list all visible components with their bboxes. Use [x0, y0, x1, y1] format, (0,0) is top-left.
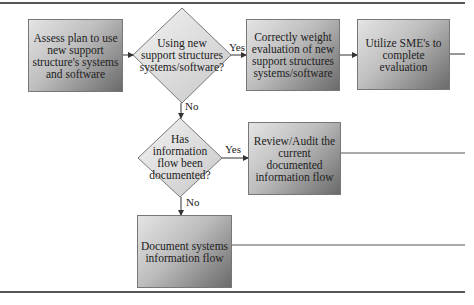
review-audit-label: Review/Audit the current documented info… — [251, 135, 338, 183]
document-flow-box: Document systems information flow — [137, 215, 232, 288]
edge-label-yes-2: Yes — [225, 143, 241, 155]
correctly-weight-box: Correctly weight evaluation of new suppo… — [246, 19, 340, 91]
decision-new-systems-text: Using new support structures systems/sof… — [140, 30, 224, 80]
edge-label-no-2: No — [186, 196, 199, 208]
decision-documented-label: Has information flow been documented? — [146, 133, 214, 181]
assess-plan-label: Assess plan to use new support structure… — [31, 32, 120, 80]
review-audit-box: Review/Audit the current documented info… — [248, 122, 341, 195]
document-flow-label: Document systems information flow — [140, 240, 229, 264]
utilize-sme-label: Utilize SME's to complete evaluation — [360, 37, 447, 73]
utilize-sme-box: Utilize SME's to complete evaluation — [357, 19, 450, 90]
correctly-weight-label: Correctly weight evaluation of new suppo… — [249, 31, 337, 79]
edge-label-yes-1: Yes — [229, 41, 245, 53]
edge-label-no-1: No — [185, 100, 198, 112]
assess-plan-box: Assess plan to use new support structure… — [28, 19, 123, 92]
decision-documented-text: Has information flow been documented? — [146, 128, 214, 186]
decision-new-systems-label: Using new support structures systems/sof… — [140, 37, 224, 73]
